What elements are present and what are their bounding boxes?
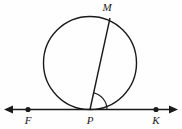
left-arrowhead-icon <box>4 106 13 114</box>
label-f: F <box>24 114 32 126</box>
point-dot-f <box>25 107 30 112</box>
point-dot-k <box>153 107 158 112</box>
geometry-canvas: M F P K <box>0 0 182 129</box>
label-k: K <box>151 114 160 126</box>
geometry-figure: M F P K <box>0 0 182 129</box>
label-p: P <box>86 114 94 126</box>
circle-shape <box>44 17 137 110</box>
label-m: M <box>101 1 112 13</box>
right-arrowhead-icon <box>169 106 178 114</box>
